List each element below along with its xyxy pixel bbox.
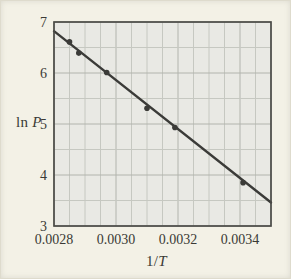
data-point [76, 50, 82, 56]
data-point [144, 105, 150, 111]
y-tick-label: 7 [40, 15, 47, 30]
y-tick-label: 6 [40, 66, 47, 81]
chart-canvas: 345670.00280.00300.00320.0034 [0, 0, 291, 279]
x-tick-label: 0.0030 [97, 232, 136, 247]
data-point [67, 39, 73, 45]
x-tick-label: 0.0032 [159, 232, 198, 247]
data-point [240, 180, 246, 186]
data-point [104, 70, 110, 76]
y-tick-label: 4 [40, 168, 47, 183]
x-axis-label: 1/T [0, 253, 291, 270]
data-point [172, 125, 178, 131]
y-axis-label: ln P [16, 114, 42, 131]
x-tick-label: 0.0028 [35, 232, 74, 247]
clausius-clapeyron-figure: 345670.00280.00300.00320.0034 ln P 1/T [0, 0, 291, 279]
x-tick-label: 0.0034 [221, 232, 260, 247]
